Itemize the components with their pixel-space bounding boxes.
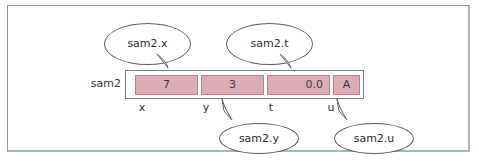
field-label-t: t xyxy=(263,101,279,114)
struct-diagram-figure: sam2 7 3 0.0 A x y t u sam2.x sam2.t sam… xyxy=(0,0,479,163)
callout-bubble-sam2-t: sam2.t xyxy=(226,23,313,65)
struct-field-cell-y: 3 xyxy=(201,75,264,95)
page-frame: sam2 7 3 0.0 A x y t u sam2.x sam2.t sam… xyxy=(7,5,470,152)
struct-variable-name: sam2 xyxy=(87,77,121,90)
callout-label-sam2-x: sam2.x xyxy=(105,38,190,50)
callout-bubble-sam2-x: sam2.x xyxy=(104,23,191,65)
callout-bubble-sam2-y: sam2.y xyxy=(219,123,299,154)
callout-bubble-sam2-u: sam2.u xyxy=(334,123,414,154)
field-label-u: u xyxy=(323,101,339,114)
struct-field-cell-t: 0.0 xyxy=(267,75,330,95)
struct-record-box: 7 3 0.0 A xyxy=(125,70,364,99)
callout-label-sam2-t: sam2.t xyxy=(227,38,312,50)
struct-field-cell-x: 7 xyxy=(135,75,198,95)
callout-label-sam2-u: sam2.u xyxy=(335,133,413,145)
field-label-y: y xyxy=(198,101,214,114)
struct-field-cell-u: A xyxy=(333,75,360,95)
field-label-x: x xyxy=(134,101,150,114)
callout-label-sam2-y: sam2.y xyxy=(220,133,298,145)
